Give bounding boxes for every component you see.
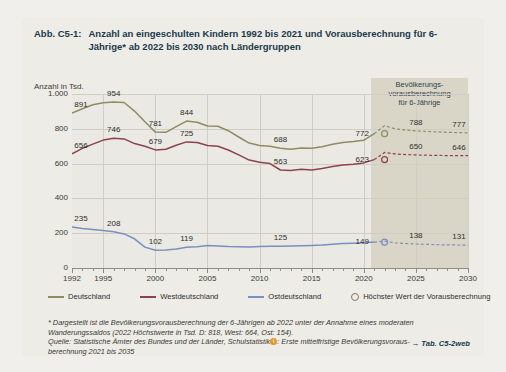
data-label: 623 [356, 154, 369, 163]
data-label: 844 [180, 108, 193, 117]
data-label: 746 [107, 125, 120, 134]
x-axis-tickmark [72, 268, 73, 273]
legend-item-h-chster-wert-der-vorausberechnung[interactable]: Höchster Wert der Vorausberechnung [351, 292, 490, 301]
forecast-data-label: 646 [452, 142, 465, 151]
highest-forecast-marker [382, 157, 388, 163]
legend-label: Ostdeutschland [268, 292, 321, 301]
x-axis-tickmark [291, 268, 292, 271]
legend-label: Westdeutschland [160, 292, 218, 301]
x-axis-tickmark [458, 268, 459, 271]
highest-forecast-marker [382, 131, 388, 137]
x-axis-tickmark [426, 268, 427, 271]
x-tick-label: 1995 [94, 274, 112, 283]
x-axis-tickmark [405, 268, 406, 271]
footnote-line-2: Wanderungssaldos (2022 Höchstwerte in Ts… [48, 328, 470, 338]
line-swatch-icon [248, 296, 264, 298]
data-label: 235 [74, 214, 87, 223]
x-axis-tickmark [468, 268, 469, 273]
y-tick-label: 1.000 [24, 89, 68, 98]
data-label: 772 [356, 128, 369, 137]
forecast-data-label: 777 [452, 119, 465, 128]
footnote-block: * Dargestellt ist die Bevölkerungsvoraus… [48, 318, 470, 356]
x-axis-tickmark [322, 268, 323, 271]
y-tick-label: 0 [24, 263, 68, 272]
data-label: 563 [274, 157, 287, 166]
data-label: 891 [74, 99, 87, 108]
data-label: 954 [107, 89, 120, 98]
x-axis-tickmark [218, 268, 219, 271]
x-axis-tickmark [176, 268, 177, 271]
x-axis-tickmark [207, 268, 208, 273]
line-swatch-icon [48, 296, 64, 298]
footnote-source-line: Quelle: Statistische Ämter des Bundes un… [48, 337, 470, 347]
x-tick-label: 2005 [199, 274, 217, 283]
x-axis-tickmark [135, 268, 136, 271]
data-label: 119 [180, 234, 193, 243]
forecast-data-label: 131 [452, 232, 465, 241]
data-label: 102 [149, 237, 162, 246]
x-tick-label: 2010 [251, 274, 269, 283]
forecast-data-label: 650 [409, 141, 422, 150]
figure-number: Abb. C5-1: [34, 27, 82, 40]
x-axis-tickmark [343, 268, 344, 271]
x-axis-tickmark [124, 268, 125, 271]
x-axis-tickmark [385, 268, 386, 271]
x-axis-tickmark [437, 268, 438, 271]
legend-item-westdeutschland[interactable]: Westdeutschland [140, 292, 218, 301]
x-axis-tickmark [93, 268, 94, 271]
data-label: 149 [356, 237, 369, 246]
data-label: 679 [149, 136, 162, 145]
x-axis-tickmark [312, 268, 313, 273]
x-axis-tickmark [374, 268, 375, 271]
data-label: 208 [107, 218, 120, 227]
x-axis-tickmark [187, 268, 188, 271]
y-tick-label: 800 [24, 124, 68, 133]
x-axis-tickmark [249, 268, 250, 271]
x-axis-tickmark [395, 268, 396, 271]
forecast-data-label: 788 [409, 117, 422, 126]
band-label-line-1: Bevölkerungs- [371, 80, 468, 89]
screenshot-root: Abb. C5-1: Anzahl an eingeschulten Kinde… [0, 0, 506, 372]
y-tick-label: 600 [24, 159, 68, 168]
figure-card: Abb. C5-1: Anzahl an eingeschulten Kinde… [22, 18, 484, 356]
footnote-line-4: berechnung 2021 bis 2035 [48, 347, 470, 357]
line-swatch-icon [140, 296, 156, 298]
x-axis-tickmark [155, 268, 156, 273]
series-forecast-ostdeutschland [374, 241, 468, 245]
series-line-westdeutschland [72, 138, 374, 170]
x-axis-tickmark [228, 268, 229, 271]
page-title: Anzahl an eingeschulten Kindern 1992 bis… [89, 27, 475, 53]
x-axis-tickmark [353, 268, 354, 271]
series-forecast-westdeutschland [374, 153, 468, 160]
forecast-data-label: 138 [409, 230, 422, 239]
chart-plot-area: Bevölkerungs- vorausberechnung für 6-Jäh… [72, 94, 468, 268]
x-axis-tickmark [197, 268, 198, 271]
y-tick-label: 200 [24, 228, 68, 237]
source-suffix: : Erste mittelfristige Bevölkerungsvorau… [277, 337, 410, 346]
x-axis-tickmark [103, 268, 104, 273]
legend-label: Höchster Wert der Vorausberechnung [363, 292, 490, 301]
x-axis-tickmark [364, 268, 365, 273]
figure-header: Abb. C5-1: Anzahl an eingeschulten Kinde… [34, 27, 474, 53]
x-axis-tickmark [166, 268, 167, 271]
x-axis-tickmark [447, 268, 448, 271]
x-tick-label: 2025 [407, 274, 425, 283]
x-tick-label: 2030 [459, 274, 477, 283]
legend-item-deutschland[interactable]: Deutschland [48, 292, 110, 301]
x-axis-tickmark [301, 268, 302, 271]
x-axis-tickmark [82, 268, 83, 271]
series-line-ostdeutschland [72, 227, 374, 250]
data-label: 781 [149, 119, 162, 128]
x-axis-tickmark [270, 268, 271, 271]
footnote-line-1: * Dargestellt ist die Bevölkerungsvoraus… [48, 318, 470, 328]
table-reference-link[interactable]: → Tab. C5-2web [412, 339, 470, 348]
x-axis-tickmark [416, 268, 417, 273]
x-axis-tickmark [114, 268, 115, 271]
legend-item-ostdeutschland[interactable]: Ostdeutschland [248, 292, 321, 301]
circle-marker-icon [351, 293, 359, 301]
x-axis-tickmark [280, 268, 281, 271]
legend-label: Deutschland [68, 292, 110, 301]
x-tick-label: 1992 [63, 274, 81, 283]
x-tick-label: 2000 [146, 274, 164, 283]
gridline-vertical [468, 94, 469, 268]
